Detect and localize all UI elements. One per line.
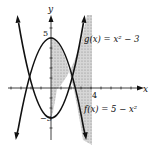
tick-label-y-neg3: −3 bbox=[40, 114, 52, 123]
arrow-g-right bbox=[81, 15, 86, 23]
graph-canvas: y x 5 −3 4 g(x) = x² − 3 f(x) = 5 − x² bbox=[0, 0, 153, 145]
curve-label-f: f(x) = 5 − x² bbox=[83, 104, 138, 114]
tick-label-y-5: 5 bbox=[43, 29, 48, 38]
curve-label-g: g(x) = x² − 3 bbox=[84, 34, 140, 44]
arrow-f-left bbox=[14, 132, 19, 140]
x-axis-label: x bbox=[143, 84, 148, 94]
arrow-g-left bbox=[16, 15, 21, 23]
tick-label-x-4: 4 bbox=[92, 91, 97, 100]
y-axis-label: y bbox=[47, 4, 54, 14]
